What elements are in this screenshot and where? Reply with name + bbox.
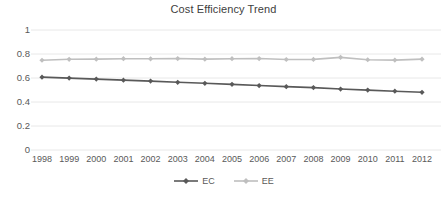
data-point-ee (175, 56, 180, 61)
chart-legend: ECEE (0, 176, 447, 186)
data-point-ee (121, 56, 126, 61)
data-point-ee (284, 57, 289, 62)
data-point-ee (202, 57, 207, 62)
data-point-ec (39, 75, 44, 80)
y-tick-label: 0.8 (0, 49, 30, 59)
legend-item-ec[interactable]: EC (173, 176, 215, 186)
data-point-ec (257, 83, 262, 88)
data-point-ec (148, 79, 153, 84)
data-point-ee (392, 58, 397, 63)
data-point-ee (229, 56, 234, 61)
data-point-ee (419, 57, 424, 62)
data-point-ee (338, 55, 343, 60)
data-point-ee (67, 57, 72, 62)
y-tick-label: 1 (0, 25, 30, 35)
data-point-ee (39, 58, 44, 63)
legend-label: EC (202, 176, 215, 186)
data-point-ec (94, 76, 99, 81)
data-point-ec (311, 85, 316, 90)
legend-label: EE (262, 176, 274, 186)
legend-marker-icon (233, 176, 259, 186)
data-point-ec (229, 82, 234, 87)
plot-area (0, 0, 447, 199)
data-point-ec (67, 76, 72, 81)
data-point-ec (338, 86, 343, 91)
chart-container: Cost Efficiency Trend 00.20.40.60.81 199… (0, 0, 447, 199)
data-point-ec (365, 88, 370, 93)
data-point-ec (419, 90, 424, 95)
data-point-ec (284, 84, 289, 89)
y-tick-label: 0.4 (0, 97, 30, 107)
data-point-ec (175, 80, 180, 85)
legend-item-ee[interactable]: EE (233, 176, 274, 186)
data-point-ec (202, 81, 207, 86)
data-point-ec (392, 89, 397, 94)
data-point-ee (257, 56, 262, 61)
data-point-ee (94, 57, 99, 62)
data-point-ee (148, 56, 153, 61)
x-tick-label: 2012 (405, 154, 439, 164)
y-tick-label: 0.6 (0, 73, 30, 83)
data-point-ee (365, 57, 370, 62)
legend-marker-icon (173, 176, 199, 186)
data-point-ee (311, 57, 316, 62)
y-tick-label: 0.2 (0, 121, 30, 131)
series-group (39, 55, 424, 95)
